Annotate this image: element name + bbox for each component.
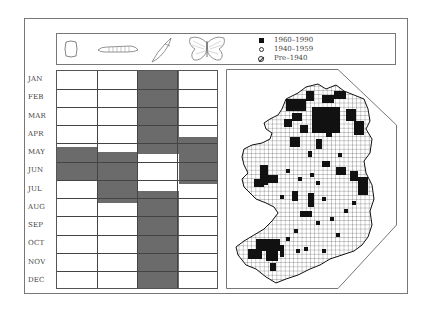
row-divider — [57, 162, 217, 163]
date-legend: 1960–1990 1940–1959 Pre–1940 — [257, 36, 313, 63]
month-label: MAY — [28, 143, 54, 161]
legend-label: 1940–1959 — [274, 45, 313, 54]
active-period-larva — [98, 152, 139, 203]
row-divider — [57, 89, 217, 90]
phenology-calendar — [56, 70, 218, 289]
month-label: APR — [28, 125, 54, 143]
open-circle-icon — [259, 47, 264, 52]
month-label: MAR — [28, 107, 54, 125]
active-period-pupa-autumn — [138, 191, 179, 289]
legend-item-1940-1959: 1940–1959 — [257, 45, 313, 54]
distribution-map — [226, 69, 398, 290]
life-stage-legend-box: 1960–1990 1940–1959 Pre–1940 — [56, 33, 396, 65]
slashed-circle-icon — [258, 56, 264, 62]
row-divider — [57, 216, 217, 217]
legend-item-1960-1990: 1960–1990 — [257, 36, 313, 45]
legend-label: Pre–1940 — [274, 54, 308, 63]
row-divider — [57, 143, 217, 144]
month-label: OCT — [28, 234, 54, 252]
row-divider — [57, 125, 217, 126]
egg-icon — [63, 39, 79, 59]
month-label: DEC — [28, 271, 54, 289]
larva-icon — [97, 44, 139, 54]
month-label: JUL — [28, 180, 54, 198]
row-divider — [57, 198, 217, 199]
legend-item-pre-1940: Pre–1940 — [257, 54, 313, 63]
month-label: AUG — [28, 198, 54, 216]
row-divider — [57, 180, 217, 181]
month-labels: JAN FEB MAR APR MAY JUN JUL AUG SEP OCT … — [28, 70, 54, 289]
legend-label: 1960–1990 — [274, 36, 313, 45]
row-divider — [57, 253, 217, 254]
row-divider — [57, 271, 217, 272]
row-divider — [57, 235, 217, 236]
month-label: FEB — [28, 88, 54, 106]
active-period-egg — [57, 147, 98, 180]
month-label: NOV — [28, 253, 54, 271]
row-divider — [57, 107, 217, 108]
month-label: JUN — [28, 161, 54, 179]
active-period-pupa-winter — [138, 71, 179, 154]
month-label: SEP — [28, 216, 54, 234]
month-label: JAN — [28, 70, 54, 88]
pupa-icon — [149, 36, 175, 64]
filled-square-icon — [259, 38, 264, 43]
butterfly-icon — [187, 35, 227, 63]
